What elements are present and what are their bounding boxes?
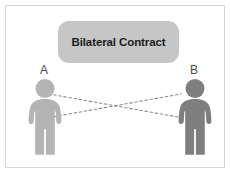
person-silhouette-icon-a bbox=[23, 78, 67, 160]
diagram-frame: Bilateral Contract A B bbox=[5, 5, 225, 168]
person-silhouette-icon bbox=[23, 78, 67, 160]
person-silhouette-icon-b bbox=[173, 78, 217, 160]
person-silhouette-icon bbox=[173, 78, 217, 160]
connector-b-to-a bbox=[49, 94, 182, 118]
party-label-a: A bbox=[34, 63, 54, 77]
title-pill: Bilateral Contract bbox=[58, 21, 179, 63]
connector-a-to-b bbox=[49, 94, 182, 118]
party-label-b: B bbox=[184, 63, 204, 77]
title-label: Bilateral Contract bbox=[71, 36, 165, 48]
diagram-stage: Bilateral Contract A B bbox=[6, 6, 224, 167]
